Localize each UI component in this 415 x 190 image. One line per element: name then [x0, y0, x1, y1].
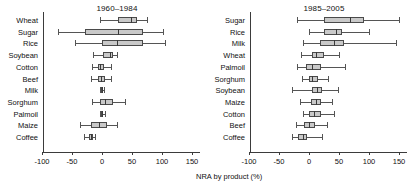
median-line: [314, 111, 315, 117]
median-line: [117, 40, 118, 46]
whisker-cap-high: [328, 76, 329, 82]
x-tick-label: -100: [241, 157, 256, 166]
category-label: Sugar: [0, 27, 38, 36]
x-tick-label: 0: [100, 157, 104, 166]
median-line: [303, 134, 304, 140]
box-iqr: [320, 40, 344, 46]
x-tick: [162, 152, 163, 155]
whisker-cap-high: [322, 134, 323, 140]
figure-boxplot-nra: 1960–1984-100-50050100150WheatSugarRiceS…: [0, 0, 415, 190]
whisker-cap-low: [297, 64, 298, 70]
whisker-cap-low: [301, 52, 302, 58]
whisker-cap-low: [100, 17, 101, 23]
x-tick-label: -50: [67, 157, 78, 166]
x-tick: [249, 152, 250, 155]
whisker-cap-high: [332, 99, 333, 105]
x-tick: [339, 152, 340, 155]
whisker-cap-low: [92, 99, 93, 105]
median-line: [110, 52, 111, 58]
median-line: [91, 134, 92, 140]
category-label: Coffee: [187, 133, 245, 142]
whisker-cap-high: [396, 40, 397, 46]
whisker-cap-low: [292, 134, 293, 140]
whisker-line: [292, 137, 322, 138]
box-iqr: [103, 52, 113, 58]
category-label: Palmoil: [0, 109, 38, 118]
x-axis-spine: [250, 152, 407, 153]
whisker-cap-high: [125, 99, 126, 105]
x-tick: [369, 152, 370, 155]
box-iqr: [102, 40, 143, 46]
whisker-cap-high: [117, 52, 118, 58]
category-label: Sorghum: [0, 97, 38, 106]
whisker-cap-low: [92, 64, 93, 70]
category-label: Soybean: [187, 86, 245, 95]
whisker-cap-high: [165, 40, 166, 46]
whisker-cap-high: [338, 87, 339, 93]
category-label: Beef: [187, 121, 245, 130]
whisker-cap-low: [84, 134, 85, 140]
category-label: Maize: [0, 121, 38, 130]
whisker-cap-high: [399, 17, 400, 23]
box-iqr: [309, 76, 318, 82]
median-line: [334, 40, 335, 46]
category-label: Wheat: [187, 51, 245, 60]
median-line: [100, 64, 101, 70]
x-tick: [309, 152, 310, 155]
x-axis-label: NRA by product (%): [196, 172, 262, 181]
category-label: Wheat: [0, 16, 38, 25]
whisker-cap-high: [111, 76, 112, 82]
median-line: [336, 29, 337, 35]
category-label: Soybean: [0, 51, 38, 60]
median-line: [312, 64, 313, 70]
category-label: Beef: [0, 74, 38, 83]
whisker-cap-low: [93, 52, 94, 58]
whisker-cap-low: [58, 29, 59, 35]
whisker-cap-low: [300, 99, 301, 105]
box-iqr: [312, 52, 324, 58]
whisker-cap-low: [75, 40, 76, 46]
x-tick: [42, 152, 43, 155]
x-tick-label: 100: [156, 157, 169, 166]
panel-title: 1985–2005: [274, 4, 374, 13]
whisker-cap-high: [105, 111, 106, 117]
box-iqr: [309, 111, 321, 117]
whisker-cap-high: [345, 64, 346, 70]
box-iqr: [85, 29, 143, 35]
median-line: [118, 29, 119, 35]
x-tick: [132, 152, 133, 155]
median-line: [312, 76, 313, 82]
x-tick-label: 100: [363, 157, 376, 166]
whisker-cap-low: [80, 122, 81, 128]
x-tick-label: 0: [307, 157, 311, 166]
whisker-cap-high: [334, 111, 335, 117]
median-line: [102, 87, 103, 93]
x-tick-label: 50: [335, 157, 343, 166]
median-line: [101, 76, 102, 82]
whisker-cap-low: [303, 111, 304, 117]
box-iqr: [306, 64, 321, 70]
whisker-cap-low: [297, 17, 298, 23]
x-tick-label: 50: [128, 157, 136, 166]
x-tick-label: -50: [274, 157, 285, 166]
median-line: [309, 122, 310, 128]
median-line: [99, 122, 100, 128]
box-iqr: [118, 17, 137, 23]
x-tick: [399, 152, 400, 155]
y-axis-spine: [43, 12, 44, 152]
category-label: Rice: [187, 27, 245, 36]
category-label: Cotton: [187, 109, 245, 118]
category-label: Sugar: [187, 16, 245, 25]
whisker-cap-low: [296, 122, 297, 128]
x-tick-label: 150: [186, 157, 199, 166]
whisker-cap-high: [147, 17, 148, 23]
median-line: [316, 52, 317, 58]
x-tick: [72, 152, 73, 155]
box-iqr: [324, 17, 364, 23]
x-axis-spine: [43, 152, 200, 153]
panel-period-2: 1985–2005-100-50050100150SugarRiceMilkWh…: [207, 0, 415, 190]
whisker-cap-high: [111, 64, 112, 70]
category-label: Milk: [187, 39, 245, 48]
whisker-cap-low: [303, 40, 304, 46]
median-line: [131, 17, 132, 23]
